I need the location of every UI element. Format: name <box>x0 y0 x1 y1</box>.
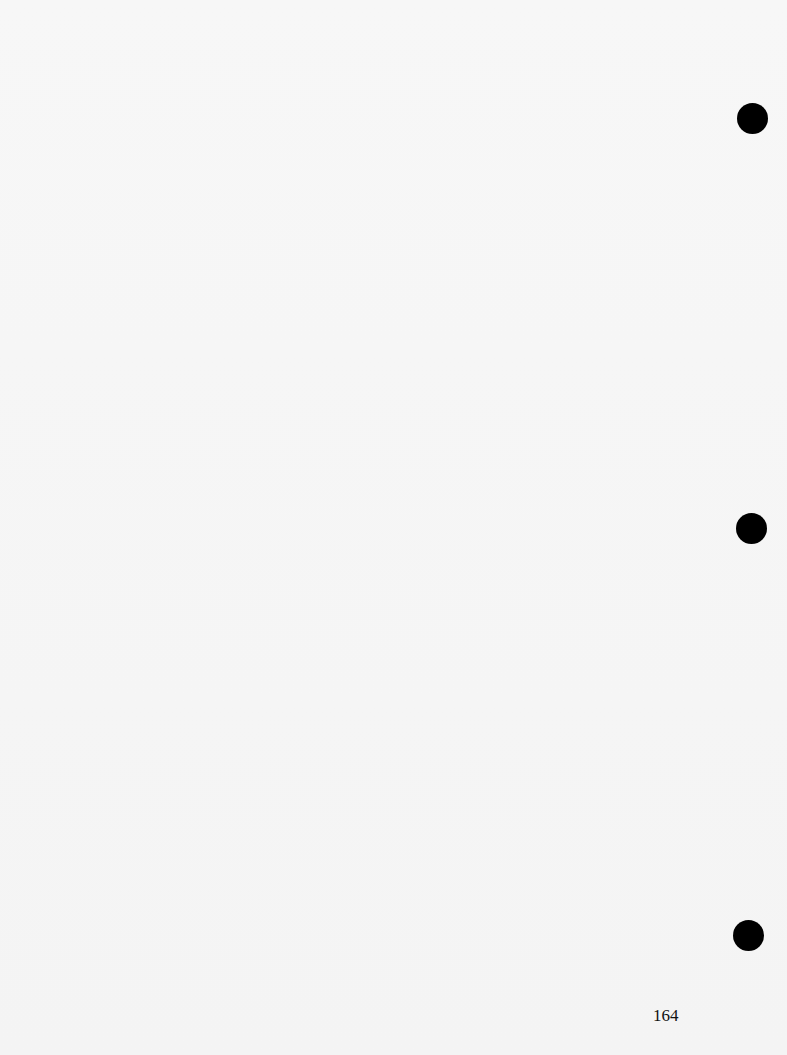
page-number: 164 <box>653 1006 679 1026</box>
punch-hole-bottom <box>733 920 764 951</box>
scanned-page: 164 <box>0 0 787 1055</box>
punch-hole-top <box>737 103 768 134</box>
punch-hole-middle <box>736 513 767 544</box>
